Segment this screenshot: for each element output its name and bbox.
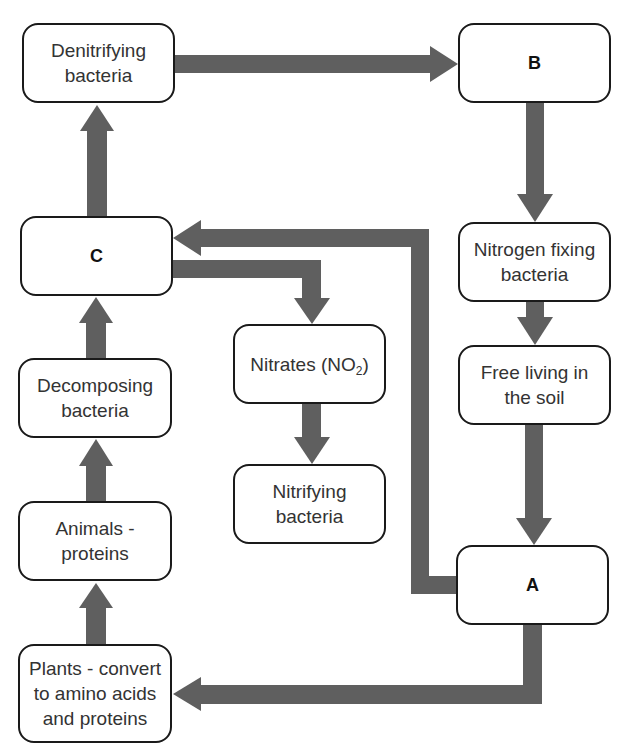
node-label: Nitrogen fixing bacteria xyxy=(474,237,595,287)
node-nitrates: Nitrates (NO2) xyxy=(233,324,386,404)
node-label: Nitrates (NO2) xyxy=(250,352,369,377)
node-c: C xyxy=(20,216,173,296)
node-nitrogen-fixing-bacteria: Nitrogen fixing bacteria xyxy=(458,222,611,302)
arrow-nitrogen-fixing-to-free-living xyxy=(517,301,553,345)
arrow-animals-to-decomposing xyxy=(79,439,113,501)
arrow-c-to-nitrates xyxy=(173,260,330,324)
arrow-b-to-nitrogen-fixing xyxy=(517,102,553,222)
node-animals-proteins: Animals - proteins xyxy=(18,501,172,581)
arrow-plants-to-animals xyxy=(79,583,113,644)
nitrates-label-suffix: ) xyxy=(362,354,368,375)
node-label: C xyxy=(90,244,103,269)
arrow-a-to-plants xyxy=(173,624,542,711)
node-label: Plants - convert to amino acids and prot… xyxy=(29,656,161,731)
node-denitrifying-bacteria: Denitrifying bacteria xyxy=(22,23,175,103)
arrow-decomposing-to-c xyxy=(79,297,113,358)
node-label: Nitrifying bacteria xyxy=(273,479,347,529)
arrow-denitrifying-to-b xyxy=(174,46,458,82)
node-label: A xyxy=(526,573,539,598)
arrow-nitrates-to-nitrifying xyxy=(294,403,330,464)
node-a: A xyxy=(456,545,609,625)
node-label: Animals - proteins xyxy=(55,516,134,566)
node-label: Denitrifying bacteria xyxy=(51,38,146,88)
node-free-living-in-soil: Free living in the soil xyxy=(458,345,611,425)
arrow-free-living-to-a xyxy=(516,424,552,545)
node-label: Decomposing bacteria xyxy=(37,373,153,423)
node-label: B xyxy=(528,51,541,76)
node-label: Free living in the soil xyxy=(481,360,589,410)
arrow-c-to-denitrifying xyxy=(80,105,114,216)
node-decomposing-bacteria: Decomposing bacteria xyxy=(18,358,172,438)
node-nitrifying-bacteria: Nitrifying bacteria xyxy=(233,464,386,544)
nitrates-label-prefix: Nitrates (NO xyxy=(250,354,356,375)
node-plants: Plants - convert to amino acids and prot… xyxy=(18,644,172,743)
node-b: B xyxy=(458,23,611,103)
